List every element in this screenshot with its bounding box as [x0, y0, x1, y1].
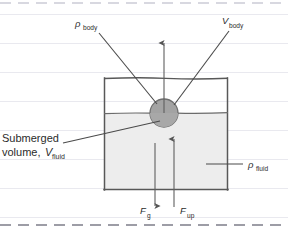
v-body-subscript: body	[229, 22, 244, 30]
rho-fluid-subscript: fluid	[256, 165, 268, 172]
force-gravity-subscript: g	[147, 212, 151, 220]
rho-body-subscript: body	[83, 24, 98, 32]
submerged-volume-subscript: fluid	[52, 153, 65, 160]
rho-fluid-symbol: ρ	[247, 159, 254, 170]
submerged-volume-line1: Submerged	[2, 132, 59, 144]
force-up-subscript: up	[187, 212, 195, 220]
submerged-volume-line2-prefix: volume,	[2, 146, 41, 158]
buoyancy-diagram: ρ body V body Submerged volume, V fluid …	[0, 0, 288, 231]
rho-body-symbol: ρ	[74, 18, 81, 29]
